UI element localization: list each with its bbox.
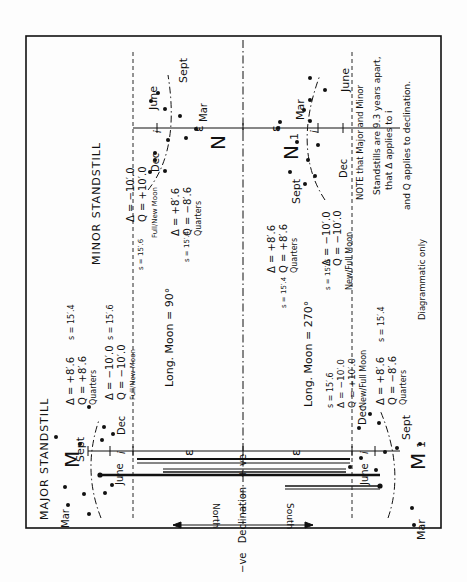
axis-north-label: North bbox=[211, 503, 221, 528]
major270-newfull-q: Q = +10′.0 bbox=[347, 358, 357, 408]
inclination-label-N1: i bbox=[309, 130, 320, 133]
major-fullnew-s: s = 15′.6 bbox=[106, 304, 115, 340]
month-mar-N: Mar bbox=[198, 102, 209, 122]
major-quarters-label: Quarters bbox=[89, 370, 98, 405]
major-title: MAJOR STANDSTILL bbox=[38, 398, 51, 520]
minor90-fullnew-q: Q = +10′.0 bbox=[137, 166, 148, 222]
minor270-newfull-label: New/Full Moon bbox=[345, 232, 354, 290]
major-max-dot bbox=[97, 472, 102, 477]
epsilon-label-N1: ε bbox=[269, 126, 283, 133]
minor-title: MINOR STANDSTILL bbox=[90, 142, 103, 265]
note-line-1: NOTE that Major and Minor bbox=[355, 84, 365, 200]
month-sept-M1: Sept bbox=[400, 414, 413, 440]
major270-newfull-delta: Δ = −10′.0 bbox=[336, 359, 346, 408]
major-min-dot bbox=[377, 483, 382, 488]
major-quarters-q: Q = +8′.6 bbox=[77, 356, 88, 405]
major270-newfull-s: s = 15′.6 bbox=[326, 372, 335, 408]
minor90-fullnew-label: Full/New Moon bbox=[151, 187, 159, 238]
long-moon-270: Long. Moon = 270° bbox=[302, 301, 315, 407]
major-fullnew-q: Q = −10′.0 bbox=[116, 344, 127, 400]
minor-arc-N1 bbox=[307, 75, 325, 200]
major-quarters-s: s = 15′.4 bbox=[67, 304, 76, 340]
label-N: N bbox=[206, 135, 230, 150]
note-line-2: Standstills are 9.3 years apart, bbox=[372, 57, 382, 196]
axis-pos-label: + ve bbox=[237, 454, 248, 478]
month-sept-N1: Sept bbox=[290, 178, 303, 204]
note-line-3: that Δ applies to i bbox=[384, 110, 394, 190]
label-M1: M bbox=[406, 453, 430, 470]
month-june-M: June bbox=[114, 463, 125, 486]
major270-quarters-delta: Δ = +8′.6 bbox=[375, 357, 386, 405]
month-june-N1: June bbox=[339, 68, 352, 93]
epsilon-label-N: ε bbox=[192, 126, 206, 133]
standstill-diagram: MAJOR STANDSTILL MINOR STANDSTILL M M 1 … bbox=[0, 0, 467, 582]
month-mar-M1: Mar bbox=[415, 519, 428, 540]
major270-quarters-q: Q = −8′.6 bbox=[387, 356, 398, 405]
month-june-N: June bbox=[147, 86, 160, 111]
note-line-5: Diagrammatic only bbox=[417, 239, 427, 320]
epsilon-label-1: ε bbox=[182, 450, 196, 457]
note-line-4: and Q applies to declination. bbox=[402, 81, 412, 210]
epsilon-label-2: ε bbox=[289, 450, 303, 457]
axis-neg-label: −ve bbox=[237, 553, 248, 573]
minor270-quarters-q: Q = +8′.6 bbox=[278, 224, 289, 273]
month-mar-M: Mar bbox=[60, 508, 71, 528]
minor270-quarters-label: Quarters bbox=[290, 238, 299, 273]
major-quarters-delta: Δ = +8′.6 bbox=[65, 357, 76, 405]
axis-declination-word: Declination bbox=[237, 487, 248, 544]
major270-quarters-s: s = 15′.4 bbox=[377, 306, 386, 342]
month-june-M1: June bbox=[359, 463, 370, 486]
month-sept-M: Sept bbox=[74, 436, 87, 462]
inclination-label-M: i bbox=[116, 451, 127, 454]
minor270-quarters-s: s = 15′.4 bbox=[280, 276, 288, 308]
minor90-quarters-label: Quarters bbox=[194, 201, 203, 236]
minor90-fullnew-delta: Δ = −10′.0 bbox=[125, 168, 136, 223]
month-mar-N1: Mar bbox=[294, 99, 307, 120]
label-N1: N bbox=[279, 145, 303, 160]
axis-declination-label: −ve Declination + ve bbox=[237, 454, 248, 573]
minor270-newfull-q: Q = −10′.0 bbox=[332, 210, 343, 266]
month-dec-M: Dec bbox=[116, 416, 127, 435]
major270-newfull-label: New/Full Moon bbox=[359, 350, 368, 408]
minor90-fullnew-s: s = 15′.6 bbox=[137, 238, 145, 270]
minor90-quarters-delta: Δ = +8′.6 bbox=[170, 188, 181, 236]
minor270-newfull-delta: Δ = −10′.0 bbox=[321, 212, 332, 267]
long-moon-90: Long. Moon = 90° bbox=[163, 288, 176, 387]
major-arc-M1 bbox=[380, 410, 395, 518]
major-arc-M bbox=[91, 420, 101, 518]
month-sept-N: Sept bbox=[177, 57, 190, 83]
month-dec-N1: Dec bbox=[338, 159, 349, 178]
inclination-label-N: i bbox=[152, 130, 163, 133]
label-M1-sub: 1 bbox=[415, 441, 428, 448]
minor270-quarters-delta: Δ = +8′.6 bbox=[266, 225, 277, 273]
label-N1-sub: 1 bbox=[288, 133, 301, 140]
major270-quarters-label: Quarters bbox=[399, 370, 408, 405]
major-fullnew-label: Full/New Moon bbox=[129, 349, 137, 400]
axis-south-label: South bbox=[285, 503, 295, 529]
inclination-label-M1: i bbox=[359, 451, 370, 454]
minor90-quarters-q: Q = −8′.6 bbox=[182, 187, 193, 236]
major-fullnew-delta: Δ = −10′.0 bbox=[104, 346, 115, 401]
month-dec-N: Dec bbox=[150, 153, 161, 172]
